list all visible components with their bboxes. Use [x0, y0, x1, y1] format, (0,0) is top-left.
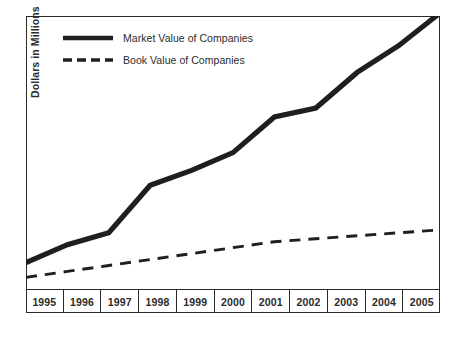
x-tick-2003: 2003 — [328, 290, 366, 313]
legend-entry-book-value: Book Value of Companies — [62, 54, 253, 66]
x-tick-1995: 1995 — [26, 290, 64, 313]
legend-swatch-dashed-icon — [62, 54, 114, 66]
x-tick-2005: 2005 — [403, 290, 440, 313]
x-tick-2004: 2004 — [366, 290, 404, 313]
legend-swatch-solid-icon — [62, 32, 114, 44]
x-tick-1998: 1998 — [139, 290, 177, 313]
x-tick-2000: 2000 — [215, 290, 253, 313]
x-tick-2002: 2002 — [290, 290, 328, 313]
chart-figure: Dollars in Millions Market Value of Comp… — [0, 0, 465, 346]
x-tick-1997: 1997 — [101, 290, 139, 313]
legend-entry-market-value: Market Value of Companies — [62, 32, 253, 44]
x-tick-2001: 2001 — [252, 290, 290, 313]
x-tick-1996: 1996 — [64, 290, 102, 313]
legend-label-market-value: Market Value of Companies — [123, 32, 253, 44]
x-axis-tick-labels: 1995199619971998199920002001200220032004… — [26, 289, 440, 313]
legend-label-book-value: Book Value of Companies — [123, 54, 245, 66]
chart-legend: Market Value of Companies Book Value of … — [62, 32, 253, 66]
x-tick-1999: 1999 — [177, 290, 215, 313]
